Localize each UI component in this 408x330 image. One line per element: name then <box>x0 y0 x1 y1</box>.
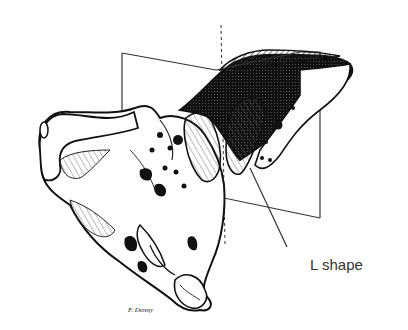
leader-line <box>250 168 287 247</box>
anatomical-illustration: F. Denny L shape <box>0 0 408 330</box>
artist-signature: F. Denny <box>127 306 154 314</box>
l-shape-label: L shape <box>310 256 363 273</box>
